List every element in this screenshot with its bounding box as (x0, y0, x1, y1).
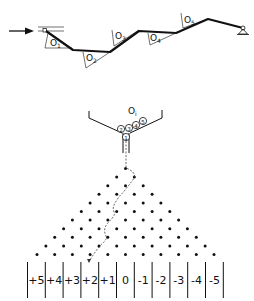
ball-3: 3 (125, 124, 132, 131)
peg (80, 210, 83, 213)
bin-label: +4 (46, 274, 62, 287)
peg (186, 244, 189, 247)
bin-label: -1 (138, 274, 149, 287)
peg (53, 236, 56, 239)
linkage-bar (46, 19, 243, 52)
peg (133, 244, 136, 247)
peg (36, 253, 39, 256)
obstacle-label-5: O5 (184, 15, 195, 26)
funnel-balls: 1 2 3 4 5 (117, 117, 146, 140)
ball-1: 1 (122, 133, 129, 140)
peg (133, 210, 136, 213)
svg-text:5: 5 (141, 119, 145, 125)
svg-text:3: 3 (127, 126, 131, 132)
peg (106, 219, 109, 222)
peg (115, 193, 118, 196)
peg (142, 236, 145, 239)
input-arrow-icon (9, 28, 34, 35)
peg (159, 201, 162, 204)
peg (159, 219, 162, 222)
obstacle-label-4: O4 (150, 33, 161, 44)
ball-2: 2 (117, 125, 124, 132)
peg (186, 227, 189, 230)
peg (124, 184, 127, 187)
peg (106, 201, 109, 204)
bin-label: 0 (122, 274, 129, 287)
peg (89, 253, 92, 256)
peg (133, 227, 136, 230)
peg (151, 227, 154, 230)
peg (62, 227, 65, 230)
svg-text:1: 1 (124, 135, 128, 141)
svg-text:2: 2 (119, 127, 123, 133)
peg (80, 244, 83, 247)
peg (124, 253, 127, 256)
peg (177, 253, 180, 256)
peg (151, 244, 154, 247)
bin-label: -4 (191, 274, 202, 287)
peg (106, 253, 109, 256)
bin-label: +2 (82, 274, 98, 287)
peg (98, 210, 101, 213)
peg (89, 201, 92, 204)
bin-label: +1 (99, 274, 115, 287)
peg (213, 253, 216, 256)
peg (71, 253, 74, 256)
peg (115, 210, 118, 213)
peg (159, 236, 162, 239)
peg (168, 244, 171, 247)
peg (177, 219, 180, 222)
ball-5: 5 (139, 117, 146, 124)
mechanism: O1 O2 O3 O4 O5 (9, 13, 249, 68)
peg (204, 244, 207, 247)
peg (159, 253, 162, 256)
bins: +5+4+3+2+10-1-2-3-4-5 (28, 262, 224, 298)
peg (44, 244, 47, 247)
peg (142, 184, 145, 187)
peg (71, 219, 74, 222)
ball-path (89, 141, 134, 262)
peg (195, 253, 198, 256)
bin-label: +5 (28, 274, 44, 287)
peg (142, 219, 145, 222)
peg (124, 167, 127, 170)
peg (80, 227, 83, 230)
peg (98, 227, 101, 230)
guide-rails (38, 27, 64, 32)
funnel-label: Oi (128, 106, 137, 117)
peg (98, 193, 101, 196)
peg (168, 227, 171, 230)
peg (142, 253, 145, 256)
peg (177, 236, 180, 239)
diagram-canvas: O1 O2 O3 O4 O5 Oi 1 2 3 4 5 (0, 0, 254, 301)
bin-label: -2 (156, 274, 167, 287)
peg (124, 236, 127, 239)
peg (89, 219, 92, 222)
peg (195, 236, 198, 239)
peg (168, 210, 171, 213)
peg (115, 176, 118, 179)
peg (106, 236, 109, 239)
peg (124, 219, 127, 222)
peg (89, 236, 92, 239)
peg (62, 244, 65, 247)
obstacle-labels: O1 O2 O3 O4 O5 (50, 15, 195, 64)
peg (133, 193, 136, 196)
bin-label: -3 (173, 274, 184, 287)
peg (106, 184, 109, 187)
peg (71, 236, 74, 239)
ball-4: 4 (132, 121, 139, 128)
peg (151, 193, 154, 196)
peg (124, 201, 127, 204)
obstacle-label-3: O3 (115, 31, 126, 42)
bin-label: +3 (64, 274, 80, 287)
bin-label: -5 (209, 274, 220, 287)
ball-path-end (87, 259, 91, 263)
peg (142, 201, 145, 204)
funnel: Oi 1 2 3 4 5 (89, 106, 162, 153)
galton-pegs (36, 167, 216, 256)
peg (151, 210, 154, 213)
peg (115, 244, 118, 247)
obstacle-label-2: O2 (86, 53, 97, 64)
peg (115, 227, 118, 230)
